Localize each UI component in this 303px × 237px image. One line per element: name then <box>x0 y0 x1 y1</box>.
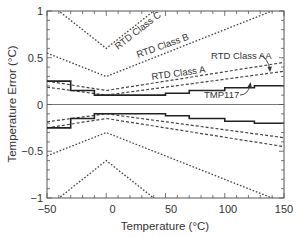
x-tick-label: 0 <box>109 203 115 215</box>
class-aa-label: RTD Class AA <box>211 50 272 61</box>
y-axis-title: Temperature Error (°C) <box>6 45 18 162</box>
class-b-label: RTD Class B <box>135 31 190 60</box>
x-tick-label: 150 <box>275 203 293 215</box>
class-a-label: RTD Class A <box>151 63 207 82</box>
y-tick-label: −0.5 <box>21 145 43 157</box>
arrowhead-icon <box>268 67 273 73</box>
y-tick-label: 0.5 <box>28 52 43 64</box>
tmp117-label: TMP117 <box>204 89 239 100</box>
arrowhead-icon <box>248 82 253 88</box>
x-tick-label: 50 <box>165 203 177 215</box>
tmp117-upper-line <box>47 81 284 95</box>
tmp117-lower-line <box>47 114 284 128</box>
x-tick-label: 100 <box>219 203 237 215</box>
y-tick-label: 0 <box>37 99 43 111</box>
rtd-class-b-lower-line <box>47 133 284 203</box>
rtd-vs-tmp117-error-chart: 1 0.5 0 −0.5 −1 −50 0 50 100 150 Tempera… <box>0 0 303 237</box>
y-tick-label: 1 <box>37 5 43 17</box>
x-tick-label: −50 <box>38 203 57 215</box>
x-axis-title: Temperature (°C) <box>121 220 209 232</box>
rtd-class-aa-lower-line <box>47 114 284 138</box>
series-layer <box>47 0 284 237</box>
